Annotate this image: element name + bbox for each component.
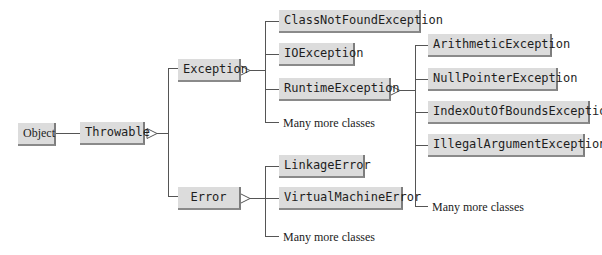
class-hierarchy-diagram: Object Throwable Exception Error ClassNo…: [0, 0, 602, 255]
class-box-illegalargumentexception: IllegalArgumentException: [428, 134, 585, 157]
class-box-virtualmachineerror: VirtualMachineError: [279, 187, 403, 210]
class-box-exception: Exception: [178, 59, 241, 82]
class-box-classnotfoundexception: ClassNotFoundException: [279, 10, 421, 33]
class-box-ioexception: IOException: [279, 43, 355, 66]
class-box-object: Object: [18, 123, 56, 146]
class-box-arithmeticexception: ArithmeticException: [428, 34, 552, 57]
class-box-throwable: Throwable: [80, 122, 145, 145]
class-box-indexoutofboundsexception: IndexOutOfBoundsException: [428, 101, 590, 124]
more-classes-runtime: Many more classes: [432, 200, 524, 214]
more-classes-exception: Many more classes: [283, 116, 375, 130]
class-box-nullpointerexception: NullPointerException: [428, 68, 558, 91]
class-box-linkageerror: LinkageError: [279, 155, 365, 178]
class-box-error: Error: [178, 187, 241, 210]
class-box-runtimeexception: RuntimeException: [279, 78, 391, 101]
more-classes-error: Many more classes: [283, 230, 375, 244]
